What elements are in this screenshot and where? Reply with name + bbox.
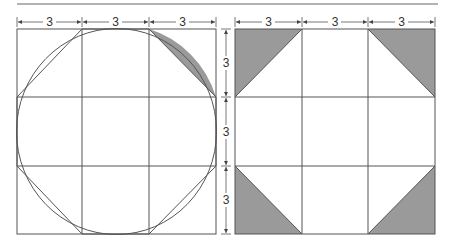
- dim-label: 3: [265, 15, 272, 29]
- dim-label: 3: [332, 15, 339, 29]
- right-side-dimensions: 3 3 3: [221, 29, 231, 234]
- right-panel: 3 3 3 3 3 3: [221, 15, 435, 234]
- left-top-dimensions: 3 3 3: [17, 15, 216, 29]
- dim-label: 3: [223, 56, 230, 70]
- dim-label: 3: [223, 193, 230, 207]
- dim-label: 3: [179, 15, 186, 29]
- diagram-canvas: 3 3 3: [0, 0, 450, 251]
- right-top-dimensions: 3 3 3: [235, 15, 435, 29]
- dim-label: 3: [112, 15, 119, 29]
- dim-label: 3: [398, 15, 405, 29]
- left-panel: 3 3 3: [17, 15, 217, 235]
- dim-label: 3: [223, 125, 230, 139]
- dim-label: 3: [46, 15, 53, 29]
